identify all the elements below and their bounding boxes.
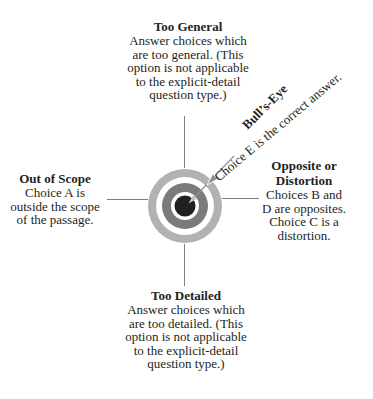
bullseye-target-graphic	[0, 0, 373, 399]
bullseye-diagram: Too General Answer choices which are too…	[0, 0, 373, 399]
